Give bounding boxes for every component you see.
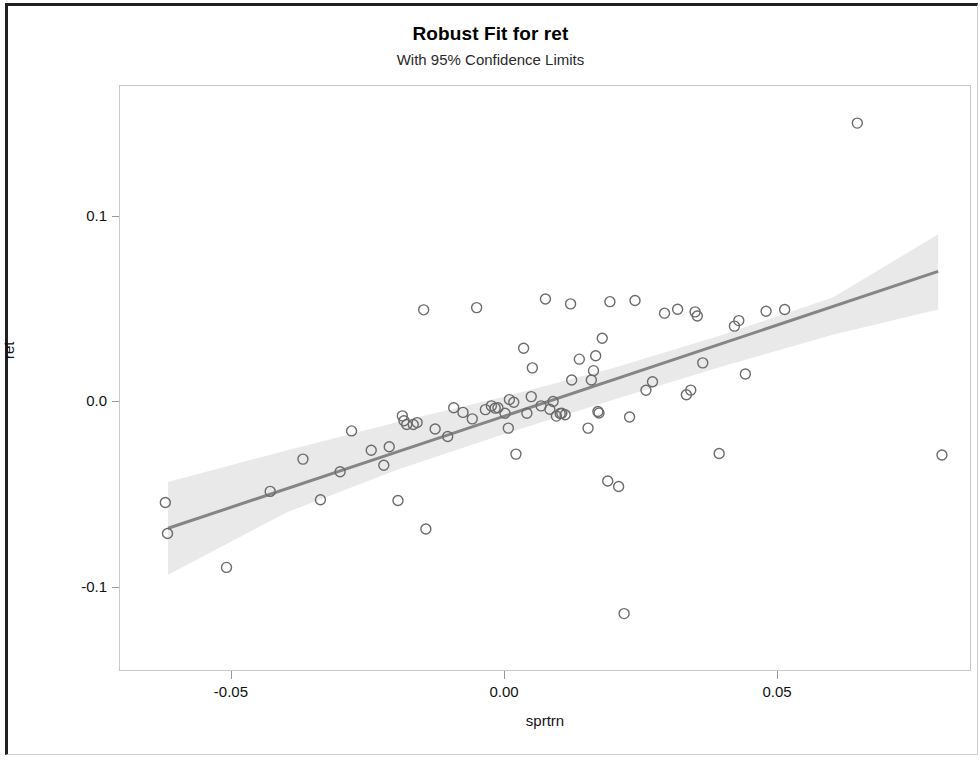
plot-svg <box>120 86 971 671</box>
data-point-marker <box>937 450 947 460</box>
data-point-marker <box>566 299 576 309</box>
data-point-marker <box>780 304 790 314</box>
y-axis-label: ret <box>0 341 17 359</box>
data-point-marker <box>714 449 724 459</box>
scatter-markers <box>160 118 947 619</box>
data-point-marker <box>583 423 593 433</box>
x-tick-mark <box>504 671 505 679</box>
data-point-marker <box>660 308 670 318</box>
data-point-marker <box>619 609 629 619</box>
y-tick-label: -0.1 <box>9 578 107 595</box>
data-point-marker <box>673 304 683 314</box>
graph-canvas: Robust Fit for ret With 95% Confidence L… <box>9 7 972 752</box>
data-point-marker <box>393 495 403 505</box>
data-point-marker <box>761 306 771 316</box>
robust-fit-plot-page: Robust Fit for ret With 95% Confidence L… <box>0 0 980 764</box>
x-tick-label: 0.05 <box>732 683 822 700</box>
data-point-marker <box>852 118 862 128</box>
data-point-marker <box>519 343 529 353</box>
data-point-marker <box>614 482 624 492</box>
plot-area <box>119 85 971 671</box>
data-point-marker <box>511 449 521 459</box>
x-tick-label: 0.00 <box>459 683 549 700</box>
x-axis-label: sprtrn <box>119 712 971 729</box>
y-tick-label: 0.1 <box>9 207 107 224</box>
x-tick-mark <box>777 671 778 679</box>
data-point-marker <box>605 297 615 307</box>
data-point-marker <box>603 476 613 486</box>
data-point-marker <box>597 333 607 343</box>
data-point-marker <box>540 294 550 304</box>
data-point-marker <box>740 369 750 379</box>
y-tick-label: 0.0 <box>9 392 107 409</box>
data-point-marker <box>625 412 635 422</box>
x-tick-mark <box>231 671 232 679</box>
data-point-marker <box>222 562 232 572</box>
confidence-band <box>168 234 938 574</box>
chart-subtitle: With 95% Confidence Limits <box>9 51 972 68</box>
data-point-marker <box>472 303 482 313</box>
data-point-marker <box>591 351 601 361</box>
chart-title: Robust Fit for ret <box>9 23 972 45</box>
data-point-marker <box>574 354 584 364</box>
data-point-marker <box>630 296 640 306</box>
x-tick-label: -0.05 <box>186 683 276 700</box>
data-point-marker <box>421 524 431 534</box>
data-point-marker <box>419 305 429 315</box>
robust-fit-line <box>168 271 938 528</box>
data-point-marker <box>527 363 537 373</box>
